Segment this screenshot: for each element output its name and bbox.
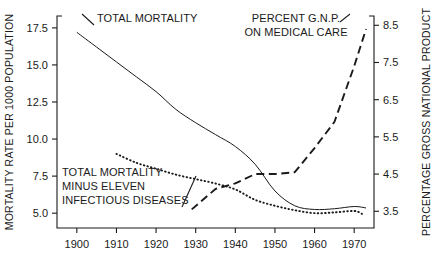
x-axis-tick-label: 1930 <box>183 238 207 250</box>
y-axis-tick-label-left: 17.5 <box>27 22 48 34</box>
x-axis-tick-label: 1950 <box>263 238 287 250</box>
y-axis-title-left: MORTALITY RATE PER 1000 POPULATION <box>3 14 15 230</box>
x-axis-tick-label: 1910 <box>104 238 128 250</box>
y-axis-tick-label-right: 5.5 <box>383 131 398 143</box>
y-axis-tick-label-left: 7.5 <box>33 170 48 182</box>
y-axis-tick-label-left: 15.0 <box>27 59 48 71</box>
y-axis-tick-label-right: 4.5 <box>383 168 398 180</box>
y-axis-title-right: PERCENTAGE GROSS NATIONAL PRODUCT <box>420 8 432 236</box>
series-annotation-total-mortality: TOTAL MORTALITY <box>97 12 198 24</box>
leader-line-gnp <box>340 14 350 22</box>
mortality-gnp-line-chart: 5.07.510.012.515.017.53.54.55.56.57.58.5… <box>0 0 439 257</box>
x-axis-tick-label: 1920 <box>144 238 168 250</box>
y-axis-tick-label-right: 7.5 <box>383 56 398 68</box>
y-axis-tick-label-right: 3.5 <box>383 205 398 217</box>
series-annotation-gnp-1: PERCENT G.N.P. <box>252 12 340 24</box>
y-axis-tick-label-right: 6.5 <box>383 94 398 106</box>
chart-figure: 5.07.510.012.515.017.53.54.55.56.57.58.5… <box>0 0 439 257</box>
series-annotation-minus-infectious-1: TOTAL MORTALITY <box>62 166 163 178</box>
y-axis-tick-label-left: 10.0 <box>27 133 48 145</box>
y-axis-tick-label-left: 12.5 <box>27 96 48 108</box>
y-axis-tick-label-left: 5.0 <box>33 207 48 219</box>
x-axis-tick-label: 1970 <box>342 238 366 250</box>
series-annotation-minus-infectious-3: INFECTIOUS DISEASES <box>62 194 189 206</box>
leader-line-total-mortality <box>82 14 94 25</box>
series-annotation-minus-infectious-2: MINUS ELEVEN <box>62 180 145 192</box>
x-axis-tick-label: 1900 <box>65 238 89 250</box>
x-axis-tick-label: 1960 <box>302 238 326 250</box>
leader-line-infectious <box>182 176 196 207</box>
series-path-2 <box>192 29 366 209</box>
x-axis-tick-label: 1940 <box>223 238 247 250</box>
y-axis-tick-label-right: 8.5 <box>383 19 398 31</box>
series-annotation-gnp-2: ON MEDICAL CARE <box>244 26 347 38</box>
